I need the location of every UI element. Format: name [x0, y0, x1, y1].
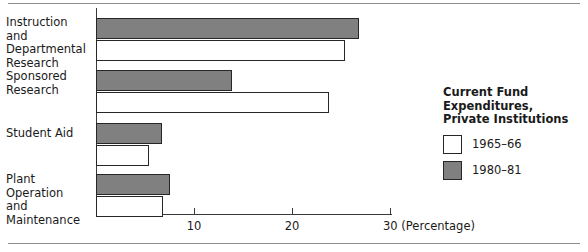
legend-label-1965: 1965–66: [472, 137, 522, 151]
bar-1965-student-aid: [96, 145, 149, 166]
category-label-line: Sponsored: [6, 70, 92, 84]
x-axis-tick-label-with-unit: 30 (Percentage): [383, 219, 475, 233]
category-label-sponsored-research: Sponsored Research: [6, 70, 92, 97]
x-axis-tick: [292, 208, 293, 215]
category-label-line: and Maintenance: [6, 200, 92, 227]
legend-title: Current Fund Expenditures, Private Insti…: [443, 86, 583, 127]
legend-label-1980: 1980–81: [472, 163, 522, 177]
x-axis-tick: [390, 208, 391, 215]
legend-title-line: Private Institutions: [443, 113, 583, 127]
bottom-divider-rule: [8, 243, 580, 244]
x-axis-tick: [194, 208, 195, 215]
category-label-line: Research: [6, 57, 92, 71]
legend-swatch-1980: [443, 161, 462, 180]
bar-1965-sponsored-research: [96, 92, 329, 113]
category-label-line: Research: [6, 84, 92, 98]
x-axis-tick-label: 20: [285, 219, 300, 233]
category-label-plant-operation: Plant Operation and Maintenance: [6, 173, 92, 227]
legend-entry-1965: 1965–66: [443, 135, 583, 154]
category-label-instruction: Instruction and Departmental Research: [6, 16, 92, 70]
top-divider-rule: [8, 3, 580, 4]
legend-swatch-1965: [443, 135, 462, 154]
bar-1980-student-aid: [96, 123, 162, 144]
bar-1980-plant-operation: [96, 174, 170, 195]
category-label-line: Departmental: [6, 43, 92, 57]
bar-1980-instruction: [96, 18, 359, 39]
category-label-line: Student Aid: [6, 127, 92, 141]
x-axis-tick-label: 10: [187, 219, 202, 233]
legend-entry-1980: 1980–81: [443, 161, 583, 180]
bar-1965-instruction: [96, 40, 345, 61]
category-label-line: Plant Operation: [6, 173, 92, 200]
category-label-line: Instruction and: [6, 16, 92, 43]
category-label-student-aid: Student Aid: [6, 127, 92, 141]
bar-1965-plant-operation: [96, 196, 163, 217]
legend-title-line: Current Fund Expenditures,: [443, 86, 583, 113]
plot-area: 10 20 30 (Percentage): [96, 8, 392, 215]
bar-1980-sponsored-research: [96, 70, 232, 91]
legend: Current Fund Expenditures, Private Insti…: [443, 86, 583, 187]
chart-figure: Instruction and Departmental Research Sp…: [0, 0, 588, 252]
